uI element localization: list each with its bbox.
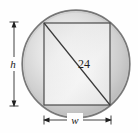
width-dimension-arrow: w <box>43 113 112 127</box>
figure-canvas: 24 h w <box>0 0 138 133</box>
height-dimension-arrow: h <box>8 21 20 107</box>
width-label: w <box>71 114 79 126</box>
geometry-figure: 24 h w <box>0 0 138 133</box>
height-label: h <box>10 58 16 70</box>
diagonal-length-label: 24 <box>78 57 90 71</box>
